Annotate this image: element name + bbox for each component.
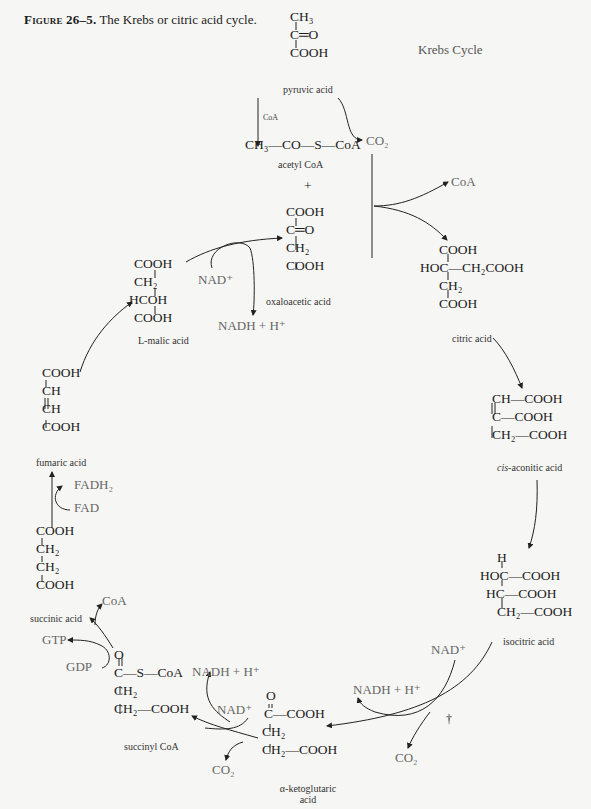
label-gtp: GTP bbox=[42, 632, 67, 648]
label-nadh-malate: NADH + H⁺ bbox=[218, 318, 286, 334]
formula-row: CH bbox=[42, 382, 80, 400]
label-succinyl-coa: succinyl CoA bbox=[124, 741, 179, 752]
formula-row: CH₂ bbox=[114, 682, 189, 700]
label-l-malic-acid: L-malic acid bbox=[138, 335, 189, 346]
formula-row: H bbox=[497, 549, 577, 567]
figure-caption: Figure 26–5. The Krebs or citric acid cy… bbox=[24, 12, 257, 28]
formula-row: HC—COOH bbox=[486, 585, 566, 603]
formula-row: COOH bbox=[134, 255, 172, 273]
formula-row: HOC—CH₂COOH bbox=[420, 259, 524, 277]
label-co2-isocitrate: CO₂ bbox=[395, 750, 418, 766]
label-nad-isocitrate: NAD⁺ bbox=[431, 642, 466, 658]
label-pyruvic-acid: pyruvic acid bbox=[283, 84, 333, 95]
formula-row: CH₂ bbox=[36, 558, 74, 576]
label-cis-aconitic-acid: cis-aconitic acid bbox=[497, 462, 562, 473]
formula-row: C═O bbox=[290, 26, 328, 44]
formula-row: COOH bbox=[42, 418, 80, 436]
formula-row: CH₂ bbox=[439, 277, 543, 295]
formula-row: CH₂—COOH bbox=[114, 700, 189, 718]
name-text: -aconitic acid bbox=[508, 462, 562, 473]
formula-row: CH—COOH bbox=[492, 390, 567, 408]
formula-row: C—COOH bbox=[492, 408, 567, 426]
formula-row: HOC—COOH bbox=[480, 567, 560, 585]
formula-row: COOH bbox=[439, 295, 543, 313]
molecule-cis-aconitic-acid: CH—COOH C—COOH CH₂—COOH bbox=[492, 390, 567, 444]
label-fad: FAD bbox=[74, 500, 99, 516]
formula-row: O bbox=[266, 687, 341, 705]
label-fumaric-acid: fumaric acid bbox=[36, 457, 86, 468]
formula-row: O bbox=[114, 646, 189, 664]
label-coa-small: CoA bbox=[263, 113, 278, 122]
formula-row: COOH bbox=[42, 364, 80, 382]
molecule-fumaric-acid: COOH CH CH COOH bbox=[42, 364, 80, 436]
molecule-citric-acid: COOH HOC—CH₂COOH CH₂ COOH bbox=[420, 241, 524, 313]
diagram-title: Krebs Cycle bbox=[418, 42, 483, 58]
formula-row: COOH bbox=[36, 522, 74, 540]
formula-row: CH₂ bbox=[36, 540, 74, 558]
label-coa-succinyl: CoA bbox=[102, 593, 127, 609]
label-nad-ketoglutarate: NAD⁺ bbox=[217, 702, 252, 718]
label-citric-acid: citric acid bbox=[452, 333, 492, 344]
molecule-alpha-ketoglutaric-acid: O C—COOH CH₂ CH₂—COOH bbox=[262, 687, 337, 759]
formula-row: HCOH bbox=[129, 291, 167, 309]
formula-row: CH₂—COOH bbox=[262, 741, 337, 759]
label-succinic-acid: succinic acid bbox=[30, 613, 82, 624]
formula-row: CH₂—COOH bbox=[492, 426, 567, 444]
formula-row: C—S—CoA bbox=[114, 664, 189, 682]
formula-row: CH bbox=[42, 400, 80, 418]
molecule-acetyl-coa: CH₃—CO—S—CoA bbox=[245, 136, 361, 154]
molecule-oxaloacetic-acid: COOH C═O CH₂ COOH bbox=[286, 203, 324, 275]
plus-sign: + bbox=[304, 177, 312, 195]
name-line-1: α-ketoglutaric bbox=[268, 783, 348, 794]
label-coa-released: CoA bbox=[451, 174, 476, 190]
formula-row: CH₂—COOH bbox=[497, 603, 577, 621]
label-nadh-isocitrate: NADH + H⁺ bbox=[353, 682, 421, 698]
label-acetyl-coa: acetyl CoA bbox=[278, 159, 323, 170]
formula-row: CH₂ bbox=[286, 239, 324, 257]
molecule-l-malic-acid: COOH CH₂ HCOH COOH bbox=[134, 255, 172, 327]
formula-row: CH₂ bbox=[134, 273, 172, 291]
label-nad-malate: NAD⁺ bbox=[198, 272, 233, 288]
name-text: -malic acid bbox=[144, 335, 189, 346]
formula-row: COOH bbox=[290, 44, 328, 62]
label-isocitric-acid: isocitric acid bbox=[503, 636, 554, 647]
formula-row: C—COOH bbox=[264, 705, 339, 723]
label-co2-ketoglutarate: CO₂ bbox=[212, 762, 235, 778]
molecule-succinyl-coa: O C—S—CoA CH₂ CH₂—COOH bbox=[114, 646, 189, 718]
dagger-mark: † bbox=[446, 712, 452, 727]
label-nadh-ketoglutarate: NADH + H⁺ bbox=[192, 664, 260, 680]
formula-row: CH₂ bbox=[262, 723, 337, 741]
formula-row: COOH bbox=[286, 257, 324, 275]
name-line-2: acid bbox=[268, 794, 348, 805]
formula-row: C═O bbox=[286, 221, 324, 239]
label-co2-top: CO₂ bbox=[366, 133, 389, 149]
molecule-isocitric-acid: H HOC—COOH HC—COOH CH₂—COOH bbox=[480, 549, 560, 621]
label-alpha-ketoglutaric-acid: α-ketoglutaric acid bbox=[268, 783, 348, 805]
formula-row: COOH bbox=[36, 576, 74, 594]
figure-label: Figure 26–5. bbox=[24, 12, 96, 27]
molecule-pyruvic-acid: CH₃ C═O COOH bbox=[290, 8, 328, 62]
formula-row: CH₃ bbox=[290, 8, 328, 26]
italic-prefix: cis bbox=[497, 462, 508, 473]
label-oxaloacetic-acid: oxaloacetic acid bbox=[266, 296, 331, 307]
label-gdp: GDP bbox=[66, 659, 92, 675]
molecule-succinic-acid: COOH CH₂ CH₂ COOH bbox=[36, 522, 74, 594]
formula-row: COOH bbox=[439, 241, 543, 259]
label-fadh2: FADH₂ bbox=[74, 477, 113, 493]
formula-row: COOH bbox=[134, 309, 172, 327]
formula-row: COOH bbox=[286, 203, 324, 221]
figure-caption-text: The Krebs or citric acid cycle. bbox=[99, 12, 256, 27]
